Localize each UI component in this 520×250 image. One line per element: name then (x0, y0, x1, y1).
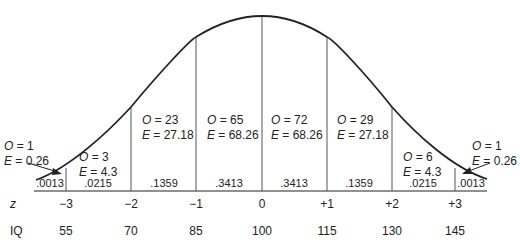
iq-tick: 145 (435, 224, 475, 238)
observed-label: O = 1 (472, 139, 517, 154)
region-5-prob: .3413 (269, 177, 319, 189)
z-row-label: z (10, 197, 16, 211)
z-tick: 0 (242, 197, 282, 211)
observed-label: O = 6 (403, 150, 441, 165)
region-5-oe: O = 72 E = 68.26 (271, 113, 323, 143)
expected-label: E = 68.26 (207, 128, 259, 143)
expected-label: E = 0.26 (4, 154, 49, 169)
region-4-oe: O = 65 E = 68.26 (207, 113, 259, 143)
iq-tick: 85 (176, 224, 216, 238)
region-3-prob: .1359 (139, 177, 189, 189)
z-tick: −2 (111, 197, 151, 211)
observed-label: O = 23 (142, 113, 194, 128)
iq-row-label: IQ (10, 224, 23, 238)
z-tick: −3 (46, 197, 86, 211)
observed-label: O = 1 (4, 139, 49, 154)
z-tick: −1 (176, 197, 216, 211)
expected-label: E = 68.26 (271, 128, 323, 143)
iq-tick: 55 (46, 224, 86, 238)
region-4-prob: .3413 (204, 177, 254, 189)
iq-tick: 70 (111, 224, 151, 238)
iq-tick: 115 (307, 224, 347, 238)
region-8-prob: .0013 (446, 177, 496, 189)
z-tick: +1 (307, 197, 347, 211)
region-6-oe: O = 29 E = 27.18 (337, 113, 389, 143)
observed-label: O = 65 (207, 113, 259, 128)
observed-label: O = 29 (337, 113, 389, 128)
expected-label: E = 27.18 (142, 128, 194, 143)
expected-label: E = 0.26 (472, 154, 517, 169)
region-3-oe: O = 23 E = 27.18 (142, 113, 194, 143)
region-1-oe: O = 1 E = 0.26 (4, 139, 49, 169)
region-6-prob: .1359 (334, 177, 384, 189)
iq-tick: 130 (372, 224, 412, 238)
expected-label: E = 27.18 (337, 128, 389, 143)
observed-label: O = 72 (271, 113, 323, 128)
z-tick: +2 (372, 197, 412, 211)
region-7-prob: .0215 (398, 177, 448, 189)
region-2-prob: .0215 (73, 177, 123, 189)
iq-tick: 100 (242, 224, 282, 238)
region-8-oe: O = 1 E = 0.26 (472, 139, 517, 169)
region-1-prob: .0013 (25, 177, 75, 189)
region-7-oe: O = 6 E = 4.3 (403, 150, 441, 180)
normal-curve-figure (0, 0, 520, 250)
z-tick: +3 (435, 197, 475, 211)
observed-label: O = 3 (79, 150, 117, 165)
region-2-oe: O = 3 E = 4.3 (79, 150, 117, 180)
